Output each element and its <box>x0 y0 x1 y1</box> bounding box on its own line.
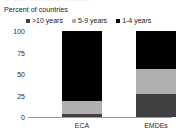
legend-item-1[interactable]: 5-9 years <box>72 17 107 25</box>
y-axis-tick-25: 25 <box>17 92 25 99</box>
y-axis-tick-100: 100 <box>13 28 25 35</box>
legend-swatch-icon-0 <box>26 19 30 23</box>
legend-label-1: 5-9 years <box>78 17 107 25</box>
legend-item-2[interactable]: 1-4 years <box>116 17 151 25</box>
legend-swatch-icon-1 <box>72 19 76 23</box>
y-axis-tick-75: 75 <box>17 49 25 56</box>
chart-axis-title: Percent of countries <box>4 5 68 14</box>
bar-segment-EMDEs-5-9-years <box>136 69 176 94</box>
y-axis-tick-labels: 0255075100 <box>0 27 28 121</box>
y-axis-tick-0: 0 <box>21 114 25 121</box>
x-axis-tick-EMDEs: EMDEs <box>144 122 168 129</box>
bar-segment-EMDEs-1-4-years <box>136 31 176 69</box>
chart-container: Figure: Duration of episodes Percent of … <box>0 0 176 139</box>
legend-swatch-icon-2 <box>116 19 120 23</box>
chart-legend: >10 years 5-9 years 1-4 years <box>26 17 151 25</box>
plot-area <box>30 31 172 117</box>
legend-item-0[interactable]: >10 years <box>26 17 63 25</box>
legend-label-2: 1-4 years <box>122 17 151 25</box>
bar-segment-ECA--10-years <box>62 114 102 117</box>
bar-segment-EMDEs--10-years <box>136 94 176 117</box>
bar-segment-ECA-1-4-years <box>62 31 102 101</box>
bar-segment-ECA-5-9-years <box>62 101 102 114</box>
cut-off-title: Figure: Duration of episodes <box>8 0 89 2</box>
bar-EMDEs[interactable] <box>136 31 176 117</box>
x-axis-tick-ECA: ECA <box>75 122 89 129</box>
bar-ECA[interactable] <box>62 31 102 117</box>
y-axis-tick-50: 50 <box>17 71 25 78</box>
legend-label-0: >10 years <box>32 17 63 25</box>
x-axis-line <box>28 117 172 118</box>
x-axis-tick-labels: ECAEMDEs <box>30 120 172 134</box>
